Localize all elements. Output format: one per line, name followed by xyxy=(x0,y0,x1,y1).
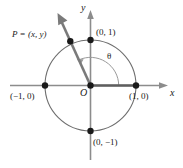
point-top-marker xyxy=(87,37,93,43)
point-p-marker xyxy=(67,38,73,44)
point-bottom-marker xyxy=(87,128,93,134)
point-right-label: (1, 0) xyxy=(129,92,149,101)
origin-label: O xyxy=(80,88,87,98)
point-bottom-label: (0, −1) xyxy=(93,138,118,147)
figure-canvas xyxy=(0,0,183,168)
origin-marker xyxy=(87,82,93,88)
point-right-marker xyxy=(133,82,139,88)
point-top-label: (0, 1) xyxy=(96,28,116,37)
point-left-marker xyxy=(42,82,48,88)
point-left-label: (−1, 0) xyxy=(10,92,35,101)
unit-circle-figure: P = (x, y) (0, 1) (1, 0) (−1, 0) (0, −1)… xyxy=(0,0,183,168)
angle-label: θ xyxy=(107,52,111,61)
y-axis-label: y xyxy=(81,3,85,13)
point-p-label: P = (x, y) xyxy=(12,30,46,39)
x-axis-label: x xyxy=(170,88,174,98)
